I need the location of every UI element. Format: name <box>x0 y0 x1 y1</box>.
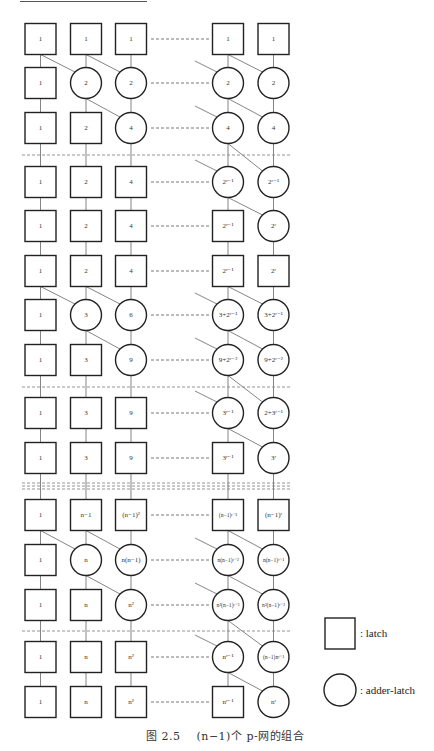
legend-adder-latch-label: : adder-latch <box>360 684 415 696</box>
node-value: (n−1)nʳ⁻¹ <box>263 654 284 661</box>
adder-latch-node: n²(n−1)ʳ⁻³ <box>213 590 244 621</box>
node-value: 2ʳ⁻¹ <box>222 267 233 275</box>
column-ellipsis-dashes <box>151 39 209 702</box>
latch-node: 2ʳ⁻¹ <box>213 256 244 287</box>
latch-node: 9 <box>116 398 147 429</box>
latch-node: 1 <box>25 443 56 474</box>
node-value: nʳ⁻¹ <box>222 698 233 706</box>
latch-node: 1 <box>71 24 102 55</box>
node-value: 2ʳ⁻¹ <box>268 178 279 186</box>
node-value: 2ʳ⁻¹ <box>222 178 233 186</box>
node-value: 3ʳ⁻¹ <box>222 454 233 462</box>
node-value: 9 <box>129 409 133 417</box>
node-value: n <box>84 653 88 661</box>
node-value: 3ʳ <box>271 454 277 462</box>
latch-node: 1 <box>25 300 56 331</box>
latch-node: 2 <box>71 167 102 198</box>
latch-node: 2 <box>71 113 102 144</box>
node-value: 1 <box>272 35 276 43</box>
node-value: 4 <box>129 178 133 186</box>
caption-text: (n−1)个 p-网的组合 <box>197 730 305 743</box>
node-value: 2 <box>84 124 88 132</box>
legend-latch-label: : latch <box>360 627 387 639</box>
latch-node: (n−1)ʳ <box>258 500 289 531</box>
node-value: n <box>84 698 88 706</box>
latch-node: 3ʳ⁻¹ <box>213 443 244 474</box>
latch-node: 1 <box>25 398 56 429</box>
node-value: n² <box>128 601 134 609</box>
latch-node: 1 <box>25 345 56 376</box>
adder-latch-node: n(n−1)ʳ⁻² <box>213 545 244 576</box>
adder-latch-node: 2 <box>258 68 289 99</box>
node-value: 3 <box>84 311 88 319</box>
adder-latch-node: 2 <box>116 68 147 99</box>
adder-latch-node: 9 <box>116 345 147 376</box>
latch-node: n² <box>116 687 147 718</box>
adder-latch-node: 3ʳ <box>258 443 289 474</box>
node-value: 2+3ʳ⁻¹ <box>264 409 283 417</box>
latch-node: 2ʳ⁻¹ <box>213 211 244 242</box>
node-value: 2 <box>129 79 133 87</box>
node-value: 1 <box>39 653 43 661</box>
node-value: 1 <box>39 698 43 706</box>
latch-node: 2 <box>71 211 102 242</box>
node-value: 4 <box>129 222 133 230</box>
node-value: n(n−1)ʳ⁻² <box>217 557 238 564</box>
latch-node: 1 <box>25 590 56 621</box>
adder-latch-node: n(n−1)ʳ⁻¹ <box>258 545 289 576</box>
latch-node: 4 <box>116 211 147 242</box>
node-value: 1 <box>39 311 43 319</box>
latch-node: 2ʳ <box>258 256 289 287</box>
adder-latch-node: 2ʳ⁻¹ <box>213 167 244 198</box>
node-value: 4 <box>226 124 230 132</box>
adder-latch-node: 9+2ʳ⁻² <box>213 345 244 376</box>
node-value: 2 <box>84 79 88 87</box>
node-value: 1 <box>39 409 43 417</box>
node-value: 3+2ʳ⁻¹ <box>219 311 238 319</box>
node-value: (n−1)ʳ <box>265 511 283 519</box>
node-value: 9+2ʳ⁻² <box>219 356 238 364</box>
adder-latch-node: n²(n−1)ʳ⁻² <box>258 590 289 621</box>
adder-latch-node: 2ʳ⁻¹ <box>258 167 289 198</box>
latch-node: 1 <box>25 642 56 673</box>
node-value: 3 <box>84 454 88 462</box>
node-value: n−1 <box>81 511 92 519</box>
node-value: 2ʳ <box>271 267 277 275</box>
latch-node: 1 <box>258 24 289 55</box>
node-value: n²(n−1)ʳ⁻³ <box>217 602 240 609</box>
adder-latch-node: 2 <box>71 68 102 99</box>
latch-node: 1 <box>25 24 56 55</box>
node-value: 1 <box>39 454 43 462</box>
node-value: 1 <box>39 601 43 609</box>
latch-node: nʳ⁻¹ <box>213 687 244 718</box>
legend-latch-icon <box>325 618 355 649</box>
latch-node: 3 <box>71 345 102 376</box>
node-value: 4 <box>129 267 133 275</box>
latch-node: 9 <box>116 443 147 474</box>
adder-latch-node: 3ʳ⁻¹ <box>213 398 244 429</box>
node-value: 4 <box>272 124 276 132</box>
node-value: 9 <box>129 356 133 364</box>
adder-latch-node: nʳ <box>258 687 289 718</box>
node-value: 1 <box>39 556 43 564</box>
latch-node: (n−1)ʳ⁻¹ <box>213 500 244 531</box>
node-value: n² <box>128 698 134 706</box>
node-value: 1 <box>39 267 43 275</box>
adder-latch-node: 2ʳ <box>258 211 289 242</box>
latch-node: 3 <box>71 443 102 474</box>
node-value: n <box>84 556 88 564</box>
node-value: 2 <box>84 267 88 275</box>
adder-latch-node: 2+3ʳ⁻¹ <box>258 398 289 429</box>
legend-adder-latch-icon <box>324 674 356 706</box>
adder-latch-node: 3 <box>71 300 102 331</box>
latch-node: 1 <box>25 113 56 144</box>
adder-latch-node: (n−1)nʳ⁻¹ <box>258 642 289 673</box>
adder-latch-node: 6 <box>116 300 147 331</box>
latch-node: 2 <box>71 256 102 287</box>
latch-node: n <box>71 687 102 718</box>
node-value: n²(n−1)ʳ⁻² <box>262 602 285 609</box>
node-value: 3 <box>84 356 88 364</box>
node-value: 1 <box>39 178 43 186</box>
node-value: 1 <box>39 356 43 364</box>
latch-node: 1 <box>116 24 147 55</box>
